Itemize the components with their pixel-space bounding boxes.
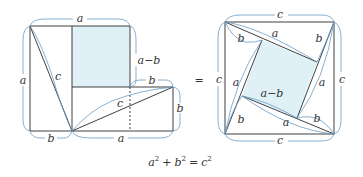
eq-sup-3: 2 — [207, 155, 211, 163]
label-a-left: a — [233, 76, 240, 89]
equation: a2+b2=c2 — [148, 155, 212, 169]
shaded-square-right — [242, 40, 317, 118]
shaded-square-left — [72, 26, 130, 87]
label-diag-c-right: c — [117, 97, 123, 110]
left-figure: a a c a−b b c b b a — [20, 12, 184, 145]
label-top-a: a — [77, 12, 84, 25]
label-b-bottom: b — [47, 132, 54, 145]
eq-equals: = — [189, 156, 198, 169]
pythagorean-proof-diagram: a a c a−b b c b b a = — [0, 0, 363, 177]
eq-b: b — [174, 156, 181, 169]
label-c-bottom: c — [277, 134, 283, 147]
label-b-top-right: b — [148, 74, 155, 87]
label-a-bottom: a — [118, 132, 125, 145]
label-b-tl: b — [237, 32, 244, 45]
label-c-top: c — [277, 8, 283, 21]
label-left-a: a — [20, 74, 27, 87]
label-b-tr: b — [315, 32, 322, 45]
label-c-right: c — [339, 73, 345, 86]
label-a-bottom-diag: a — [283, 116, 290, 129]
equals-sign: = — [194, 74, 203, 87]
eq-sup-1: 2 — [155, 155, 159, 163]
label-b-right: b — [176, 102, 183, 115]
label-c-left: c — [216, 73, 222, 86]
label-a-minus-b-right: a−b — [261, 87, 284, 100]
right-figure: c c c c b a b a a a−b b a b — [216, 8, 345, 147]
label-a-top: a — [272, 27, 279, 40]
label-diag-c-left: c — [55, 70, 61, 83]
label-a-right: a — [319, 76, 326, 89]
diag-left — [30, 26, 72, 131]
label-b-br: b — [313, 112, 320, 125]
label-b-bl: b — [237, 113, 244, 126]
equation-text: a2+b2=c2 — [148, 155, 212, 169]
label-a-minus-b: a−b — [138, 54, 161, 67]
eq-plus: + — [162, 156, 171, 169]
eq-sup-2: 2 — [181, 155, 185, 163]
